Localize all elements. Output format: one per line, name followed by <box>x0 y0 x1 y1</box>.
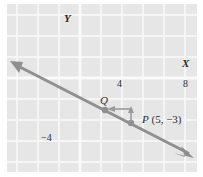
point-p-label: P (5, −3) <box>142 114 182 125</box>
x-axis-label: X <box>182 58 189 69</box>
point-p-letter: P <box>142 113 149 125</box>
point-q-label: Q <box>100 95 108 106</box>
grid-lines <box>7 4 197 172</box>
x-tick-label-8: 8 <box>183 79 188 89</box>
coordinate-plane-figure: Y X 4 8 −4 Q P (5, −3) <box>0 0 203 177</box>
y-axis-label: Y <box>64 13 71 24</box>
y-tick-label-neg-4: −4 <box>41 133 52 143</box>
point-p-coords: (5, −3) <box>151 113 181 125</box>
x-tick-label-4: 4 <box>117 79 122 89</box>
plot-area <box>7 4 197 172</box>
